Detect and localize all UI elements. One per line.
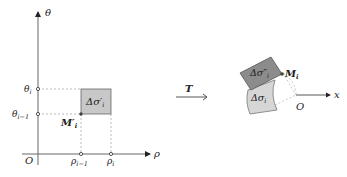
point-M-prime-sub: i [75,122,78,130]
point-M-label: M [284,68,297,79]
cell-label-sub: i [102,101,104,109]
svg-text:θi−1: θi−1 [12,109,29,121]
rho-i-sub: i [112,160,114,168]
svg-text:x: x [334,89,340,100]
theta-im1-sub: i−1 [17,113,29,121]
point-M [280,72,284,76]
transform-arrow: T [176,83,207,100]
point-M-prime-label: M′ [60,117,75,128]
right-origin-label: O [296,101,304,112]
lower-cell-label: Δσ [250,92,265,103]
transform-label: T [185,83,194,94]
axis-x-label: ρ [153,148,160,159]
svg-text:M′i: M′i [60,117,78,130]
theta-i-sub: i [29,88,31,96]
polar-transform-diagram: ρ θ O θi θi−1 ρi−1 ρi Δσ′i M′i T Δσ″i Δσ… [0,0,347,177]
svg-text:θi: θi [24,84,32,96]
upper-cell-label: Δσ″ [249,67,267,78]
right-axis-x-label: x [334,89,340,100]
svg-text:ρi−1: ρi−1 [70,156,88,168]
lower-cell-sub: i [264,97,266,105]
point-M-prime [79,112,82,115]
axis-y-label: θ [45,7,51,18]
left-panel: ρ θ O θi θi−1 ρi−1 ρi Δσ′i M′i [12,7,160,168]
svg-text:θ: θ [45,7,51,18]
svg-text:T: T [185,83,194,94]
upper-cell-sub: i [267,72,269,80]
rho-im1-sub: i−1 [76,160,88,168]
svg-text:ρi: ρi [106,156,114,168]
point-M-sub: i [296,73,299,81]
svg-text:O: O [296,101,304,112]
svg-text:Mi: Mi [284,68,299,81]
cell-label: Δσ′ [85,96,103,107]
svg-text:ρ: ρ [153,148,160,159]
right-panel: Δσ″i Δσi Mi O x [240,57,340,114]
origin-label: O [25,155,33,166]
svg-text:O: O [25,155,33,166]
